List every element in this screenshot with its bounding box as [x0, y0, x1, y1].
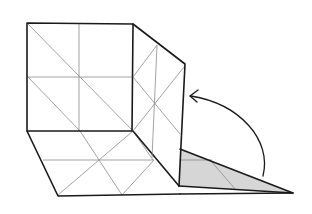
square-crease-diag-lower: [28, 77, 80, 131]
standing-crease-diag-2: [133, 77, 180, 134]
floor-crease-diag-3: [122, 160, 154, 195]
floor-crease-diag-2: [80, 131, 122, 195]
standing-crease-diag-3: [133, 67, 184, 131]
floor-crease-diag-1: [58, 131, 133, 195]
square-crease-diag-main: [28, 24, 133, 131]
standing-crease-diag-1: [133, 45, 157, 77]
floor-outline: [27, 131, 180, 196]
shaded-flap: [179, 149, 293, 193]
fold-diagram-svg: [0, 0, 312, 214]
front-square-panel: [27, 23, 133, 131]
valley-fold-line: [133, 131, 179, 186]
floor-bottom-edge: [180, 193, 293, 194]
origami-diagram: [0, 0, 312, 214]
